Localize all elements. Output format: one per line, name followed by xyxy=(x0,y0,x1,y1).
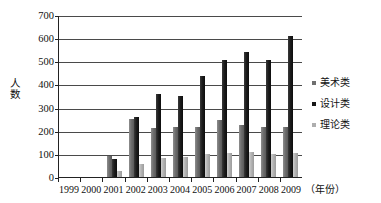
x-axis-tick-label: 2003 xyxy=(147,183,169,197)
x-axis-tick-label: 2004 xyxy=(169,183,191,197)
x-axis-tick-label: 2005 xyxy=(191,183,213,197)
legend-label: 理论类 xyxy=(320,120,350,130)
bar-group xyxy=(59,16,81,177)
bar-group xyxy=(214,16,236,177)
bar-group xyxy=(169,16,191,177)
y-axis-tick-label: 200 xyxy=(38,126,54,137)
y-axis-tick-label: 100 xyxy=(38,150,54,161)
y-axis-tick-label: 600 xyxy=(38,34,54,45)
legend-item[interactable]: 美术类 xyxy=(312,78,350,88)
legend-label: 美术类 xyxy=(320,78,350,88)
bar xyxy=(249,152,254,177)
legend-label: 设计类 xyxy=(320,99,350,109)
bar-group xyxy=(125,16,147,177)
legend-swatch-icon xyxy=(312,81,316,85)
x-axis-tick-label: 2006 xyxy=(213,183,235,197)
bar-chart: 人数 0100200300400500600700 19992000200120… xyxy=(0,0,381,203)
legend-item[interactable]: 理论类 xyxy=(312,120,350,130)
x-axis-tick-label: 2007 xyxy=(236,183,258,197)
bar-group xyxy=(258,16,280,177)
bar xyxy=(117,171,122,177)
bar-group xyxy=(192,16,214,177)
legend-swatch-icon xyxy=(312,102,316,106)
bar xyxy=(161,158,166,177)
bar-group xyxy=(147,16,169,177)
y-axis-tick-label: 700 xyxy=(38,11,54,22)
bar xyxy=(293,153,298,177)
y-axis-tick-label: 300 xyxy=(38,103,54,114)
x-axis-tick-label: 2001 xyxy=(102,183,124,197)
x-axis-labels: 1999200020012002200320042005200620072008… xyxy=(58,183,302,197)
bar xyxy=(271,154,276,177)
y-axis-tick-label: 400 xyxy=(38,80,54,91)
chart-legend: 美术类设计类理论类 xyxy=(312,78,350,130)
bar xyxy=(183,157,188,177)
x-axis-tick-label: 2000 xyxy=(80,183,102,197)
bar-group xyxy=(280,16,302,177)
legend-swatch-icon xyxy=(312,123,316,127)
x-axis-tick-label: 1999 xyxy=(58,183,80,197)
bar xyxy=(227,153,232,177)
plot-area: 0100200300400500600700 xyxy=(58,16,302,178)
bar-group xyxy=(103,16,125,177)
legend-item[interactable]: 设计类 xyxy=(312,99,350,109)
bar xyxy=(205,154,210,177)
x-axis-tick-label: 2009 xyxy=(280,183,302,197)
x-axis-tick-label: 2002 xyxy=(125,183,147,197)
x-axis-unit-label: （年份） xyxy=(305,183,345,197)
y-axis-tick-label: 500 xyxy=(38,57,54,68)
bar-group xyxy=(236,16,258,177)
x-axis-tick-label: 2008 xyxy=(258,183,280,197)
bar xyxy=(139,164,144,177)
y-axis-title: 人数 xyxy=(8,78,19,100)
bar-group xyxy=(81,16,103,177)
bar-groups xyxy=(59,16,302,177)
y-axis-tick-label: 0 xyxy=(49,173,54,184)
